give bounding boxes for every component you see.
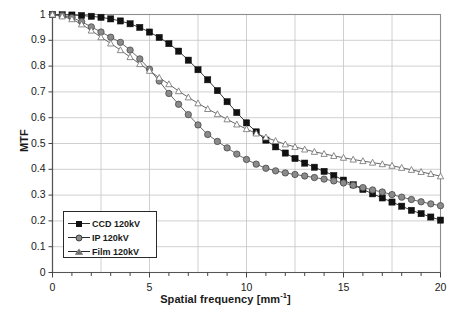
data-marker-square — [234, 109, 240, 115]
legend-label: CCD 120kV — [92, 219, 140, 229]
data-marker-square — [428, 214, 434, 220]
y-tick-label: 0.7 — [31, 85, 46, 97]
legend-label: Film 120kV — [92, 247, 139, 257]
y-tick-label: 0.8 — [31, 59, 46, 71]
data-marker-circle — [428, 201, 434, 207]
data-marker-circle — [311, 174, 317, 180]
x-tick-label: 20 — [421, 281, 451, 293]
data-marker-circle — [418, 199, 424, 205]
data-marker-square — [408, 207, 414, 213]
x-tick-label: 5 — [130, 281, 170, 293]
data-marker-square — [389, 199, 395, 205]
x-tick-label: 15 — [324, 281, 364, 293]
data-marker-circle — [272, 168, 278, 174]
legend-marker-opentriangle-icon — [68, 245, 90, 258]
legend-marker-filledsquare-icon — [68, 217, 90, 230]
data-marker-circle — [243, 156, 249, 162]
y-tick-label: 1 — [40, 8, 46, 20]
y-tick-label: 0.1 — [31, 240, 46, 252]
plot-area — [0, 0, 451, 314]
x-tick-label: 0 — [33, 281, 73, 293]
data-marker-circle — [234, 151, 240, 157]
legend-label: IP 120kV — [92, 233, 129, 243]
data-marker-square — [185, 57, 191, 63]
data-marker-square — [98, 14, 104, 20]
data-marker-square — [127, 21, 133, 27]
legend-marker-filledcircle-icon — [68, 231, 90, 244]
y-tick-label: 0.2 — [31, 214, 46, 226]
y-tick-label: 0.3 — [31, 188, 46, 200]
data-marker-square — [166, 41, 172, 47]
data-marker-square — [399, 203, 405, 209]
data-marker-circle — [399, 194, 405, 200]
data-marker-circle — [302, 173, 308, 179]
data-marker-circle — [360, 184, 366, 190]
legend-item: Film 120kV — [68, 244, 139, 259]
data-marker-square — [108, 16, 114, 22]
y-tick-label: 0.4 — [31, 162, 46, 174]
y-tick-label: 0.6 — [31, 111, 46, 123]
x-tick-label: 10 — [227, 281, 267, 293]
data-marker-square — [79, 12, 85, 18]
data-marker-circle — [321, 176, 327, 182]
data-marker-circle — [214, 138, 220, 144]
data-marker-square — [224, 99, 230, 105]
data-marker-circle — [185, 111, 191, 117]
data-marker-square — [311, 164, 317, 170]
data-marker-circle — [224, 145, 230, 151]
legend-marker-icon — [76, 221, 82, 227]
data-marker-circle — [263, 165, 269, 171]
data-marker-circle — [369, 187, 375, 193]
data-marker-square — [117, 18, 123, 24]
data-marker-square — [88, 13, 94, 19]
legend-item: CCD 120kV — [68, 216, 140, 231]
data-marker-square — [292, 155, 298, 161]
data-marker-circle — [437, 202, 443, 208]
data-marker-square — [195, 67, 201, 73]
y-tick-label: 0 — [40, 266, 46, 278]
data-marker-circle — [253, 161, 259, 167]
data-marker-circle — [408, 196, 414, 202]
data-marker-square — [137, 24, 143, 30]
data-marker-square — [146, 29, 152, 35]
data-marker-square — [156, 34, 162, 40]
data-marker-circle — [117, 39, 123, 45]
data-marker-circle — [389, 191, 395, 197]
data-marker-circle — [350, 182, 356, 188]
data-marker-circle — [379, 189, 385, 195]
data-marker-circle — [340, 180, 346, 186]
y-tick-label: 0.5 — [31, 137, 46, 149]
legend-marker-icon — [76, 234, 83, 241]
chart-legend: CCD 120kVIP 120kVFilm 120kV — [63, 211, 157, 258]
legend-marker-icon — [75, 248, 83, 254]
data-marker-square — [379, 195, 385, 201]
legend-item: IP 120kV — [68, 230, 129, 245]
mtf-chart-figure: MTF Spatial frequency [mm-1] 00.10.20.30… — [0, 0, 451, 314]
data-marker-circle — [175, 101, 181, 107]
y-tick-label: 0.9 — [31, 33, 46, 45]
data-marker-square — [176, 48, 182, 54]
data-marker-circle — [166, 90, 172, 96]
data-marker-square — [321, 168, 327, 174]
data-marker-square — [205, 77, 211, 83]
data-marker-circle — [127, 47, 133, 53]
data-marker-circle — [205, 131, 211, 137]
data-marker-square — [282, 150, 288, 156]
data-marker-circle — [292, 171, 298, 177]
data-marker-square — [302, 160, 308, 166]
data-marker-square — [418, 211, 424, 217]
data-marker-square — [273, 144, 279, 150]
data-marker-circle — [195, 122, 201, 128]
data-marker-square — [437, 217, 443, 223]
data-marker-square — [214, 88, 220, 94]
data-marker-circle — [331, 178, 337, 184]
data-marker-circle — [282, 170, 288, 176]
